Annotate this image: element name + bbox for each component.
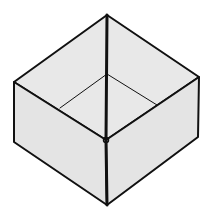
open-box-diagram: [0, 0, 213, 216]
inner-back-corner-edge: [106, 15, 107, 140]
front-corner-edge: [106, 140, 107, 205]
